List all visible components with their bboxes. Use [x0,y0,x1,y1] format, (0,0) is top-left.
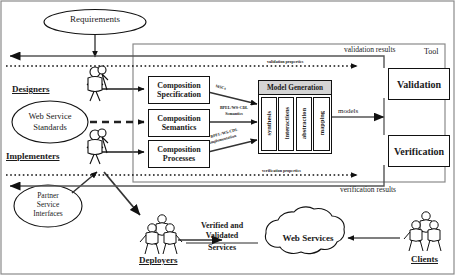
model-generation-column-synthesis-label: synthesis [265,111,272,136]
box-composition-specification[interactable]: Composition Specification [148,76,210,104]
edge-label-verification-results: verification results [340,186,396,194]
actor-label-clients: Clients [411,255,438,264]
edge-label-verification-properties: verification properties [262,169,301,173]
diagram-canvas: Requirements Web Service Standards Partn… [0,0,455,275]
partner-label-line1: Partner [14,192,82,200]
implementers-figure [87,129,108,164]
box-composition-specification-line2: Specification [157,90,201,99]
box-verification[interactable]: Verification [388,135,450,167]
actor-label-implementers: Implementers [6,152,60,161]
deployers-figure [140,215,182,254]
model-generation-column-mapping[interactable]: mapping [313,97,329,151]
edge-label-bpel-semantics-line1: BPEL/WS-CDL [210,106,258,110]
web-service-standards-label-line2: Standards [12,123,88,132]
arrow-partner-to-implementers [72,172,97,193]
edge-label-bpel-semantics-line2: Semantics [210,112,258,116]
box-validation[interactable]: Validation [388,68,450,100]
partner-label-line2: Service [14,201,82,209]
model-generation-column-abstraction[interactable]: abstraction [296,97,312,151]
box-composition-semantics-line2: Semantics [162,123,197,132]
box-composition-processes-line1: Composition [157,145,201,154]
model-generation-column-interactions[interactable]: interactions [278,97,294,151]
web-services-cloud [265,207,344,254]
box-composition-semantics[interactable]: Composition Semantics [148,109,210,137]
model-generation-column-mapping-label: mapping [318,111,325,135]
tool-frame-label: Tool [424,48,439,56]
verified-services-line2: Validated [186,232,258,240]
model-generation-columns: synthesis interactions abstraction mappi… [259,95,331,152]
edge-label-models: models [338,108,358,115]
arrow-spec-to-model-generation [208,92,257,104]
box-composition-semantics-line1: Composition [157,114,201,123]
box-composition-processes-line2: Processes [163,154,195,163]
clients-figure [404,212,441,251]
model-generation-title: Model Generation [259,81,331,95]
arrow-implementers-to-deployers [104,172,140,215]
box-composition-specification-line1: Composition [157,81,201,90]
actor-label-deployers: Deployers [139,256,178,265]
verified-services-line1: Verified and [186,222,258,230]
verified-services-line3: Services [186,244,258,252]
designers-figure [87,66,108,101]
web-services-label: Web Services [268,234,348,243]
edge-label-validation-properties: validation properties [267,60,303,64]
actor-label-designers: Designers [12,85,50,94]
model-generation-column-abstraction-label: abstraction [300,108,307,139]
requirements-label: Requirements [44,15,146,24]
model-generation-column-interactions-label: interactions [283,107,290,139]
model-generation-column-synthesis[interactable]: synthesis [261,97,277,151]
box-model-generation[interactable]: Model Generation synthesis interactions … [258,80,332,154]
web-service-standards-label-line1: Web Service [12,112,88,121]
partner-label-line3: Interfaces [14,210,82,218]
box-composition-processes[interactable]: Composition Processes [148,140,210,168]
edge-label-validation-results: validation results [344,46,395,54]
